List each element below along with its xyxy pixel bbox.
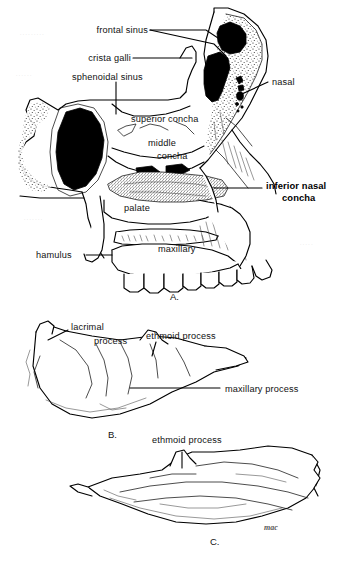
label-frontal-sinus: frontal sinus — [97, 25, 149, 35]
label-middle-concha: middle — [148, 138, 176, 148]
label-superior-concha: superior concha — [131, 114, 199, 124]
label-lacrimal-process: lacrimal — [71, 322, 104, 332]
label-middle-concha-2: concha — [157, 151, 188, 161]
panel-letter-b: B. — [108, 429, 117, 440]
ghost-mark: ..... — [300, 240, 314, 246]
label-hamulus: hamulus — [36, 250, 72, 260]
label-palate: palate — [124, 203, 150, 213]
label-lacrimal-process-2: process — [94, 336, 127, 346]
ghost-mark: ......... — [20, 30, 45, 36]
label-maxillary: maxillary — [158, 244, 196, 254]
ghost-mark: ....... — [24, 215, 44, 221]
label-crista-galli: crista galli — [88, 53, 131, 63]
artist-signature: mac — [264, 523, 278, 532]
label-inferior-nasal-concha-2: concha — [282, 192, 316, 203]
panel-letter-a: A. — [170, 291, 179, 302]
label-ethmoid-process-b: ethmoid process — [146, 331, 216, 341]
ghost-mark: ...... — [16, 71, 33, 77]
label-nasal: nasal — [272, 77, 295, 87]
label-sphenoidal-sinus: sphenoidal sinus — [72, 72, 143, 82]
panel-letter-c: C. — [210, 536, 220, 547]
label-inferior-nasal-concha: inferior nasal — [266, 180, 326, 191]
label-maxillary-process: maxillary process — [225, 384, 299, 394]
anatomical-plate: ......... ...... ....... ..... — [0, 0, 347, 562]
label-ethmoid-process-c: ethmoid process — [152, 435, 222, 445]
